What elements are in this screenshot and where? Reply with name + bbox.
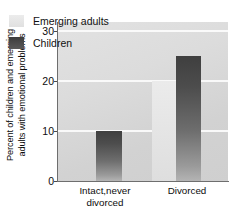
gridline-20 [58,80,228,82]
bar-chart-figure: Percent of children and emerging adults … [0,0,239,218]
legend-item-emerging-adults: Emerging adults [9,12,159,30]
x-tick-label-intact-line1: Intact,never [62,185,148,197]
x-tick-label-intact-line2: divorced [62,197,148,209]
x-tick-label-intact: Intact,never divorced [62,185,148,208]
y-tick-label-10: 10 [32,126,54,136]
legend-label-emerging-adults: Emerging adults [33,15,109,27]
chart-legend: Emerging adults Children [9,12,159,56]
y-tick-label-20: 20 [32,76,54,86]
bar-intact-children [96,131,122,181]
x-axis-line [57,181,229,182]
legend-swatch-icon-children [9,37,24,49]
legend-label-children: Children [33,37,72,49]
y-tick-label-0: 0 [32,176,54,186]
x-tick-label-divorced: Divorced [150,185,224,197]
bar-divorced-children [176,56,201,181]
legend-item-children: Children [9,34,159,52]
gridline-10 [58,130,228,132]
legend-swatch-icon-emerging-adults [9,15,24,27]
x-tick-label-divorced-line1: Divorced [150,185,224,197]
bar-divorced-emerging-adults [152,81,176,181]
